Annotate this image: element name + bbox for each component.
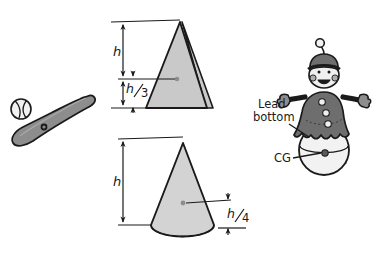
doll-cheek-right [332,75,338,81]
cone-cg-dot [181,201,186,206]
doll-arm-right [343,97,359,100]
lead-bottom-line2: bottom [253,110,295,124]
cone-h4-denominator: 4 [242,211,249,225]
pyramid-shape [146,22,213,108]
figure-svg: h h 3 h h 4 [0,0,378,257]
pyramid-h3-label: h 3 [126,81,148,100]
doll-button-2 [323,110,330,117]
lead-bottom-line1: Lead [258,97,286,111]
cone-h4-label: h 4 [227,206,249,225]
pyramid-h3-denominator: 3 [141,86,148,100]
baseball [11,99,31,120]
cone-h-label: h [113,174,121,189]
doll-cheek-left [310,75,316,81]
doll-button-1 [319,99,326,106]
cone-h4-numerator: h [227,206,235,221]
doll-button-3 [325,121,332,128]
doll-pom-pom [316,39,325,48]
roly-poly-doll [277,39,371,176]
pyramid-h3-numerator: h [126,81,134,96]
pyramid-h-label: h [113,44,121,59]
doll-hat [310,54,338,70]
pyramid-cg-dot [175,77,180,82]
cg-label: CG [274,151,291,165]
doll-cg-dot [322,150,328,156]
cone-shape [151,143,214,237]
doll-hand-right [358,94,371,108]
figure-canvas: h h 3 h h 4 [0,0,378,257]
doll-eye-right [328,71,331,74]
doll-eye-left [318,71,321,74]
